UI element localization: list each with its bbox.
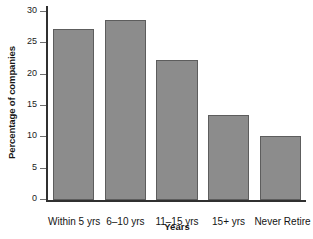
bar [105, 20, 146, 200]
y-axis-tick: 15 [40, 105, 46, 106]
y-axis-tick: 30 [40, 11, 46, 12]
y-axis-tick-label: 25 [27, 36, 37, 47]
y-axis-tick-label: 30 [27, 5, 37, 16]
y-axis-tick: 25 [40, 42, 46, 43]
x-axis-title: Years [48, 221, 306, 232]
y-axis-tick: 20 [40, 74, 46, 75]
plot-area: 051015202530 Within 5 yrs6–10 yrs11–15 y… [48, 12, 306, 200]
bar [260, 136, 301, 200]
y-axis-tick-label: 10 [27, 130, 37, 141]
y-axis-title-text: Percentage of companies [6, 46, 17, 159]
bar [156, 60, 197, 200]
y-axis-tick-label: 15 [27, 99, 37, 110]
x-axis-line [46, 200, 306, 202]
y-axis-tick: 0 [40, 199, 46, 200]
y-axis-tick: 10 [40, 136, 46, 137]
y-axis-tick: 5 [40, 168, 46, 169]
y-axis-line [46, 6, 48, 200]
bar [53, 29, 94, 200]
y-axis-tick-label: 0 [32, 193, 37, 204]
bar [208, 115, 249, 200]
y-axis-title: Percentage of companies [0, 0, 22, 205]
y-axis-tick-label: 5 [32, 162, 37, 173]
y-axis-tick-label: 20 [27, 68, 37, 79]
bar-chart-figure: Percentage of companies 051015202530 Wit… [0, 0, 313, 239]
